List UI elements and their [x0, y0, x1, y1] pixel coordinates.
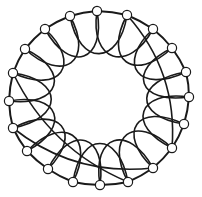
graph-node: [148, 163, 157, 172]
graph-node: [148, 24, 157, 33]
long-chord: [13, 73, 128, 182]
graph-node: [184, 92, 193, 101]
graph-node: [167, 43, 176, 52]
graph-node: [167, 143, 176, 152]
circular-graph-diagram: [0, 0, 202, 197]
graph-node: [65, 11, 74, 20]
graph-node: [68, 177, 77, 186]
graph-node: [123, 177, 132, 186]
graph-node: [22, 146, 31, 155]
long-chord: [13, 128, 153, 169]
skip-arc: [27, 132, 81, 182]
graph-node: [122, 10, 131, 19]
graph-node: [92, 6, 101, 15]
graph-node: [181, 67, 190, 76]
graph-node: [4, 96, 13, 105]
graph-node: [95, 180, 104, 189]
long-chords: [13, 15, 173, 182]
graph-node: [43, 164, 52, 173]
graph-node: [8, 123, 17, 132]
graph-node: [40, 24, 49, 33]
graph-node: [8, 68, 17, 77]
graph-node: [20, 44, 29, 53]
graph-node: [179, 119, 188, 128]
